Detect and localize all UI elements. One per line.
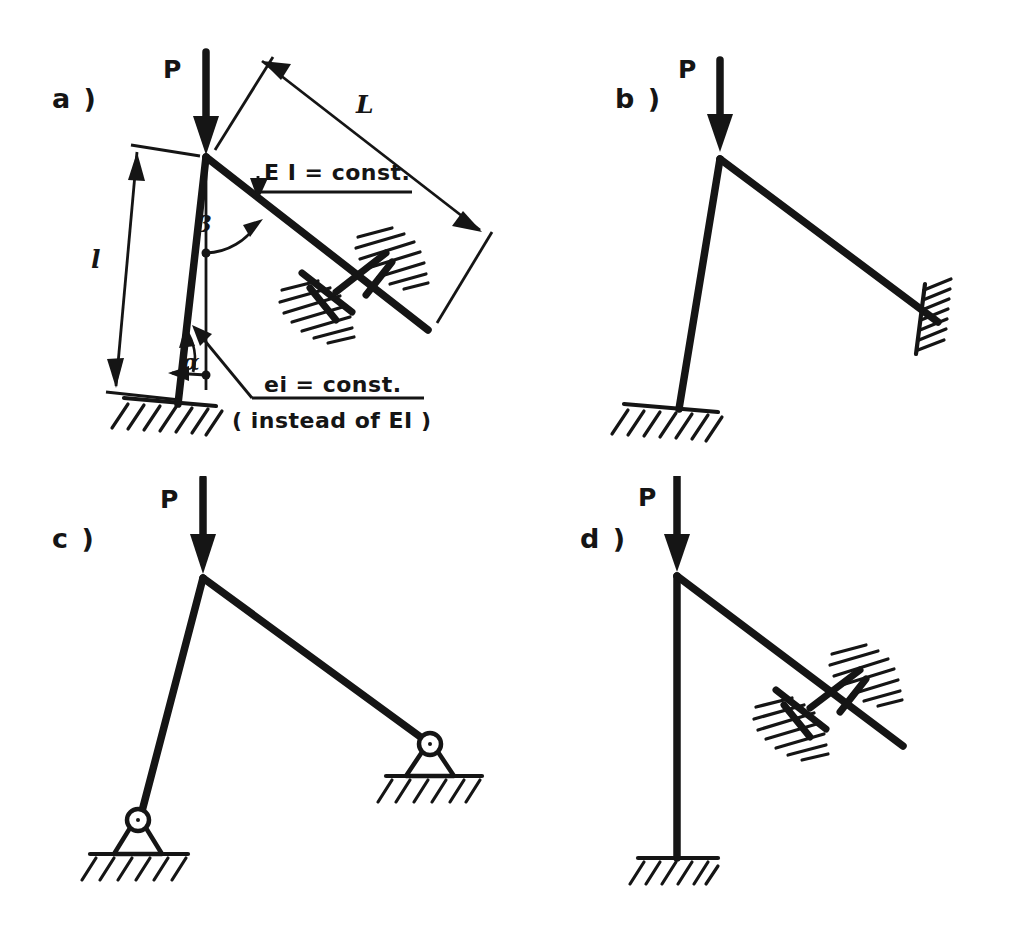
load-label-p-a: P xyxy=(163,55,181,84)
panel-a-label: a ) xyxy=(52,83,98,114)
panel-d-label: d ) xyxy=(580,523,627,554)
inclined-fixed-support-b xyxy=(916,279,951,354)
panel-d: d ) P xyxy=(520,476,1033,952)
dimension-label-L: L xyxy=(355,90,374,119)
load-label-p-d: P xyxy=(638,483,656,512)
dimension-label-l: l xyxy=(91,245,101,274)
load-arrow-p-d xyxy=(664,476,690,572)
column-member-b xyxy=(679,159,720,409)
panel-c-label: c ) xyxy=(52,523,96,554)
load-label-p-c: P xyxy=(160,485,178,514)
panel-b: b ) P xyxy=(520,0,1033,476)
pinned-support-left-c xyxy=(82,809,188,880)
sliding-support-a xyxy=(280,228,428,343)
panel-b-label: b ) xyxy=(615,83,662,114)
beam-member-b xyxy=(720,159,938,322)
panel-a: a ) P xyxy=(0,0,520,476)
load-arrow-p-a xyxy=(193,52,219,155)
fixed-support-b xyxy=(612,404,722,441)
fixed-support-a xyxy=(112,398,222,435)
angle-label-alpha: α xyxy=(182,348,200,375)
beam-member-c xyxy=(203,578,426,741)
sliding-support-d xyxy=(754,645,902,760)
load-label-p-b: P xyxy=(678,55,696,84)
load-arrow-p-b xyxy=(707,60,733,152)
fixed-support-d xyxy=(630,858,718,884)
pinned-support-right-c xyxy=(378,733,482,802)
panel-c: c ) P xyxy=(0,476,520,952)
note-ei-const: ei = const. xyxy=(264,372,402,397)
note-ei-instead: ( instead of EI ) xyxy=(232,408,431,433)
figure-root: a ) P xyxy=(0,0,1033,952)
load-arrow-p-c xyxy=(190,478,216,574)
column-member-c xyxy=(141,578,203,815)
angle-label-beta: β xyxy=(195,210,211,237)
note-EI-const: E I = const. xyxy=(264,160,410,185)
